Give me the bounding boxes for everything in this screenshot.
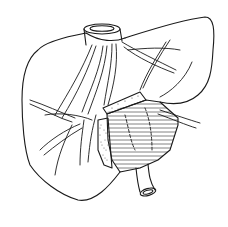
ivc-vessel	[84, 24, 122, 45]
hatched-segment	[100, 100, 185, 172]
segment-cap	[103, 92, 146, 114]
hepatic-vessels	[30, 40, 200, 175]
liver-illustration	[0, 0, 228, 227]
stippled-margin	[98, 118, 112, 168]
liver-outline	[22, 17, 214, 200]
portal-stump	[136, 164, 157, 197]
